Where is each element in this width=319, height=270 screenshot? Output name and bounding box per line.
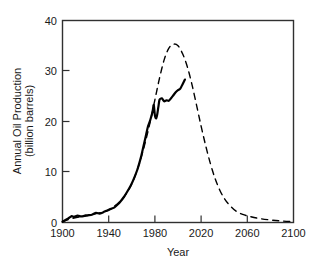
y-tick-label-30: 30 bbox=[45, 65, 57, 77]
x-tick-label-1900: 1900 bbox=[50, 227, 74, 239]
oil-production-chart: 40 30 20 10 0 1900 1940 1980 2020 2060 2… bbox=[0, 0, 319, 270]
series-projected-curve bbox=[63, 44, 294, 221]
series-historical-curve bbox=[63, 80, 185, 222]
y-axis-ticks bbox=[63, 71, 70, 172]
x-axis-ticks bbox=[109, 216, 248, 223]
y-axis-title-line2: (billion barrels) bbox=[23, 85, 35, 157]
x-tick-label-1940: 1940 bbox=[96, 227, 120, 239]
x-tick-label-2020: 2020 bbox=[189, 227, 213, 239]
y-tick-label-40: 40 bbox=[45, 15, 57, 27]
y-tick-label-10: 10 bbox=[45, 166, 57, 178]
plot-frame bbox=[63, 21, 294, 223]
x-tick-label-2100: 2100 bbox=[281, 227, 305, 239]
y-tick-label-20: 20 bbox=[45, 116, 57, 128]
chart-figure: 40 30 20 10 0 1900 1940 1980 2020 2060 2… bbox=[0, 0, 319, 270]
x-tick-label-2060: 2060 bbox=[235, 227, 259, 239]
y-axis-title-line1: Annual Oil Production bbox=[11, 68, 23, 174]
x-tick-label-1980: 1980 bbox=[143, 227, 167, 239]
x-axis-title: Year bbox=[167, 246, 190, 258]
